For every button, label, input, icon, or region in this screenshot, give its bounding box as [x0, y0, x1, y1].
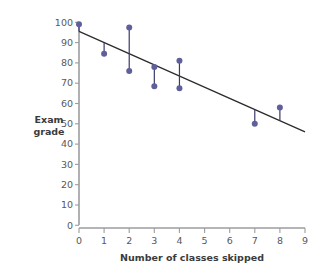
chart-screenshot: 100 90 80 70 60 50 40 30 20 10 0 [0, 0, 322, 273]
data-point [252, 121, 258, 127]
x-tick-label-7: 7 [252, 235, 258, 246]
y-axis-title-line-2: grade [33, 126, 64, 137]
y-axis-title-line-1: Exam [35, 114, 64, 125]
x-tick-label-1: 1 [101, 235, 107, 246]
data-point [126, 68, 132, 74]
y-tick-label-40: 40 [61, 138, 73, 149]
data-point [76, 21, 82, 27]
x-axis [79, 228, 305, 233]
x-axis-title: Number of classes skipped [120, 252, 264, 263]
x-tick-label-3: 3 [151, 235, 157, 246]
residual-lines-group [79, 24, 280, 123]
data-point [151, 64, 157, 70]
regression-line [79, 31, 305, 131]
scatter-plot: 100 90 80 70 60 50 40 30 20 10 0 [0, 0, 322, 273]
x-tick-label-2: 2 [126, 235, 132, 246]
data-point [126, 24, 132, 30]
y-tick-label-10: 10 [61, 199, 73, 210]
data-point [176, 85, 182, 91]
y-tick-label-30: 30 [61, 159, 73, 170]
x-tick-label-5: 5 [202, 235, 208, 246]
data-point [277, 105, 283, 111]
y-axis [75, 22, 79, 225]
x-axis-tick-labels: 0 1 2 3 4 5 6 7 8 9 [76, 235, 308, 246]
x-tick-label-4: 4 [176, 235, 182, 246]
x-tick-label-9: 9 [302, 235, 308, 246]
data-point [101, 51, 107, 57]
x-tick-label-6: 6 [227, 235, 233, 246]
y-tick-label-0: 0 [67, 220, 73, 231]
y-tick-label-90: 90 [61, 37, 73, 48]
y-tick-label-20: 20 [61, 179, 73, 190]
x-tick-label-0: 0 [76, 235, 82, 246]
data-point [176, 58, 182, 64]
y-tick-label-70: 70 [61, 77, 73, 88]
y-axis-title: Exam grade [33, 114, 64, 137]
y-tick-label-60: 60 [61, 98, 73, 109]
x-tick-label-8: 8 [277, 235, 283, 246]
data-point [151, 83, 157, 89]
y-tick-label-100: 100 [55, 17, 73, 28]
y-tick-label-80: 80 [61, 57, 73, 68]
